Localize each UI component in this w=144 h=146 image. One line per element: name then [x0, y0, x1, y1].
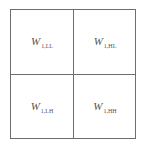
cell-ll-subscript: 1,LL — [41, 43, 53, 49]
cell-hl: W1,HL — [74, 10, 136, 74]
cell-hh-subscript: 1,HH — [104, 108, 117, 114]
subband-grid: W1,LL W1,HL W1,LH W1,HH — [10, 9, 136, 139]
cell-hh: W1,HH — [74, 75, 136, 139]
cell-lh-subscript: 1,LH — [41, 108, 54, 114]
cell-lh-label: W1,LH — [31, 100, 54, 114]
cell-hl-subscript: 1,HL — [104, 43, 117, 49]
cell-hl-label: W1,HL — [94, 35, 117, 49]
cell-ll: W1,LL — [11, 10, 73, 74]
cell-ll-label: W1,LL — [31, 35, 53, 49]
cell-hh-label: W1,HH — [93, 100, 116, 114]
cell-lh: W1,LH — [11, 75, 73, 139]
